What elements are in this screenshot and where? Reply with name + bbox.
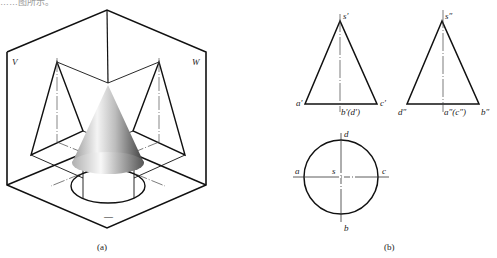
top-d-label: d (344, 129, 349, 139)
front-view: s′ a′ c′ b′(d′) (296, 11, 387, 117)
figure-b-orthographic: s′ a′ c′ b′(d′) s″ d″ b″ a″(c″) d a s c … (293, 10, 490, 252)
side-view: s″ d″ b″ a″(c″) (398, 10, 490, 117)
side-left-label: d″ (398, 107, 407, 117)
figure-a-isometric: V W — (a) (7, 10, 206, 252)
front-apex-label: s′ (343, 11, 350, 21)
v-plane-label: V (12, 57, 19, 67)
top-b-label: b (344, 223, 349, 233)
top-s-label: s (332, 166, 336, 176)
top-a-label: a (295, 166, 300, 176)
front-center-label: b′(d′) (341, 107, 360, 117)
w-plane-label: W (192, 57, 201, 67)
side-apex-label: s″ (445, 11, 453, 21)
figure-a-caption: (a) (97, 242, 107, 252)
figure-b-caption: (b) (384, 242, 395, 252)
front-left-label: a′ (296, 98, 304, 108)
top-c-label: c (382, 166, 386, 176)
side-right-label: b″ (481, 107, 490, 117)
front-right-label: c′ (380, 98, 387, 108)
top-view: d a s c b (293, 129, 389, 233)
side-center-label: a″(c″) (444, 107, 466, 117)
box-vertical-edge (107, 10, 108, 83)
cone-projection-figure: V W — (a) s′ a′ c′ b′(d′) s″ d″ b″ a″(c″… (0, 0, 497, 258)
box-mark: — (103, 211, 114, 221)
